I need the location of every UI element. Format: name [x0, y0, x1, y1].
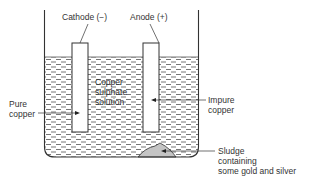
- sludge-label-3: some gold and silver: [218, 166, 296, 176]
- impure-copper-label-2: copper: [208, 105, 234, 115]
- impure-copper-label-1: Impure: [208, 95, 234, 105]
- solution-label-2: sulphate: [95, 87, 127, 97]
- cathode-electrode: [72, 43, 88, 132]
- solution-label-1: Copper: [95, 77, 123, 87]
- pure-copper-label-1: Pure: [9, 99, 27, 109]
- anode-electrode: [143, 43, 159, 132]
- cathode-label: Cathode (−): [62, 12, 107, 22]
- copper-sulphate-solution: [45, 57, 199, 157]
- anode-label: Anode (+): [130, 12, 168, 22]
- solution-label-3: solution: [95, 97, 124, 107]
- electrolysis-diagram: [0, 0, 315, 180]
- pure-copper-label-2: copper: [9, 109, 35, 119]
- sludge-label-1: Sludge: [218, 146, 244, 156]
- sludge-label-2: containing: [218, 156, 257, 166]
